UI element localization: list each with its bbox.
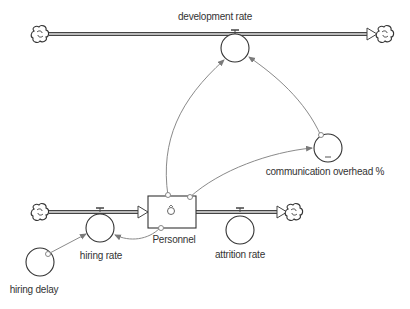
attrition-rate-label: attrition rate xyxy=(215,249,265,260)
communication-overhead-label: communication overhead % xyxy=(266,166,385,177)
source-cloud-icon xyxy=(31,204,48,221)
link-overhead-to-development-rate[interactable] xyxy=(249,57,321,136)
source-cloud-icon xyxy=(31,26,48,43)
flow-arrowhead-icon xyxy=(367,28,377,40)
flow-attrition-rate[interactable] xyxy=(196,204,303,244)
personnel-label: Personnel xyxy=(152,234,195,245)
stock-personnel[interactable] xyxy=(148,196,196,228)
hiring-delay-label: hiring delay xyxy=(10,284,59,295)
sink-cloud-icon xyxy=(376,26,393,43)
communication-overhead-converter[interactable] xyxy=(314,134,342,162)
development-rate-converter[interactable] xyxy=(221,34,249,62)
flow-hiring-rate[interactable] xyxy=(31,204,148,242)
attrition-rate-converter[interactable] xyxy=(226,216,254,244)
development-rate-label: development rate xyxy=(178,11,252,22)
flow-development-rate[interactable] xyxy=(31,26,393,62)
hiring-rate-converter[interactable] xyxy=(86,214,114,242)
sink-cloud-icon xyxy=(285,204,302,221)
hiring-rate-label: hiring rate xyxy=(80,250,122,261)
flow-arrowhead-icon xyxy=(138,206,148,218)
link-personnel-to-development-rate[interactable] xyxy=(166,60,224,196)
model-canvas xyxy=(0,0,410,309)
